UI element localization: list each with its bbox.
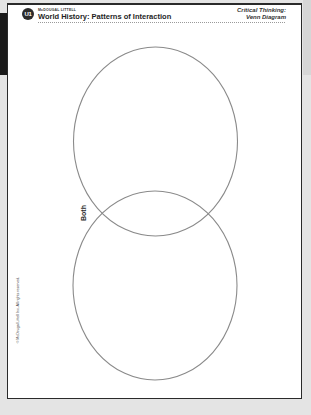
overlap-label: Both (80, 205, 87, 221)
copyright-notice: © McDougal Littell Inc. All rights reser… (16, 277, 20, 344)
venn-diagram (0, 0, 311, 415)
bottom-circle (73, 191, 237, 380)
top-circle (74, 47, 238, 236)
